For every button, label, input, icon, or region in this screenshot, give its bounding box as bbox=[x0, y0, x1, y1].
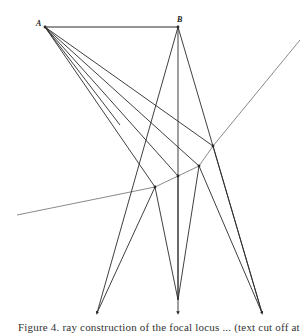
reflected-ray-5 bbox=[213, 146, 262, 313]
ray-a-3 bbox=[45, 27, 199, 166]
ray-a-1 bbox=[45, 27, 155, 187]
node-1 bbox=[154, 186, 157, 189]
ray-b-left bbox=[97, 27, 178, 313]
reflecting-curve bbox=[17, 40, 300, 215]
reflected-rays bbox=[97, 146, 262, 313]
label-point-a: A bbox=[36, 20, 41, 28]
ray-a-5 bbox=[45, 27, 120, 125]
reflected-ray-3 bbox=[178, 166, 199, 300]
node-4 bbox=[212, 145, 215, 148]
ray-a-4 bbox=[45, 27, 213, 146]
label-point-b: B bbox=[177, 16, 182, 24]
curve-nodes bbox=[44, 26, 215, 189]
rays-from-b bbox=[97, 27, 262, 313]
reflected-ray-2 bbox=[155, 187, 178, 300]
node-3 bbox=[198, 165, 201, 168]
ray-a-2 bbox=[45, 27, 178, 176]
point-b-dot bbox=[177, 26, 180, 29]
rays-from-a bbox=[45, 27, 213, 187]
reflected-ray-1 bbox=[97, 187, 155, 313]
figure-caption: Figure 4. ray construction of the focal … bbox=[18, 321, 303, 333]
reflected-ray-4 bbox=[199, 166, 262, 313]
node-2 bbox=[177, 175, 180, 178]
point-a-dot bbox=[44, 26, 47, 29]
